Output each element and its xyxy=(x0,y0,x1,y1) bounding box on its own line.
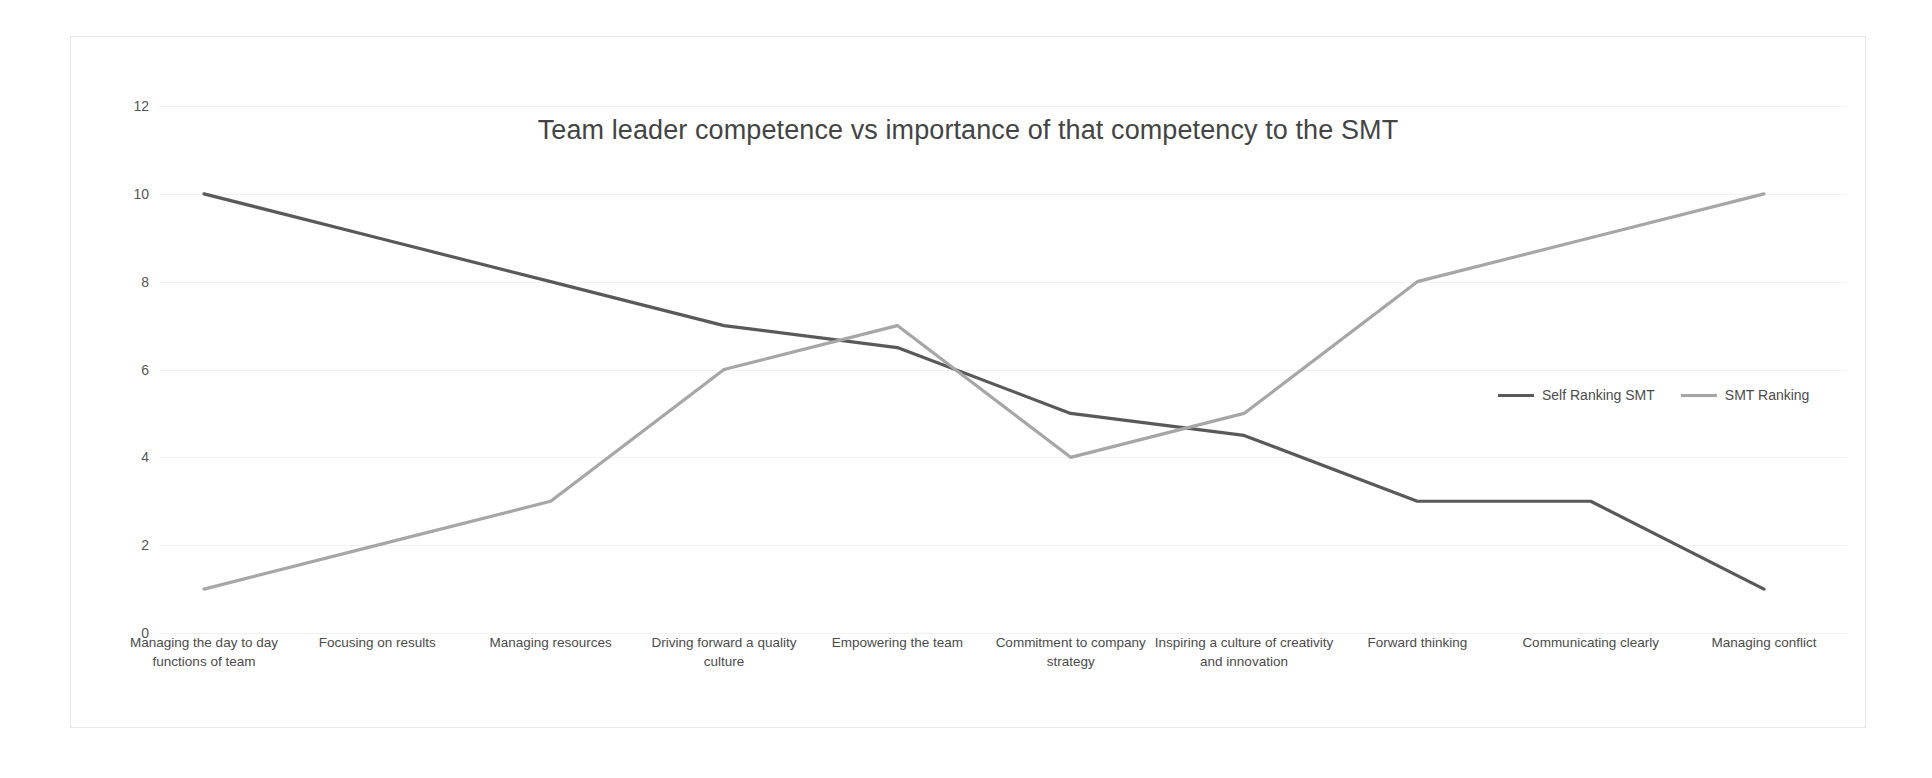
legend-item-1[interactable]: Self Ranking SMT xyxy=(1498,387,1655,403)
x-axis-tick-label: Empowering the team xyxy=(805,633,990,652)
legend-line-swatch-icon xyxy=(1498,394,1534,397)
legend-item-2[interactable]: SMT Ranking xyxy=(1681,387,1810,403)
x-axis: Managing the day to day functions of tea… xyxy=(71,633,1867,713)
legend-line-swatch-icon xyxy=(1681,394,1717,397)
plot-area: Team leader competence vs importance of … xyxy=(71,37,1865,727)
x-axis-tick-label: Managing the day to day functions of tea… xyxy=(112,633,297,671)
chart-frame: Team leader competence vs importance of … xyxy=(70,36,1866,728)
chart-legend: Self Ranking SMTSMT Ranking xyxy=(1498,387,1809,403)
x-axis-tick-label: Focusing on results xyxy=(285,633,470,652)
x-axis-tick-label: Driving forward a quality culture xyxy=(632,633,817,671)
x-axis-tick-label: Communicating clearly xyxy=(1498,633,1683,652)
x-axis-tick-label: Commitment to company strategy xyxy=(978,633,1163,671)
x-axis-tick-label: Managing resources xyxy=(458,633,643,652)
x-axis-tick-label: Inspiring a culture of creativity and in… xyxy=(1152,633,1337,671)
series-lines xyxy=(71,37,1867,729)
x-axis-tick-label: Managing conflict xyxy=(1672,633,1857,652)
legend-item-label: Self Ranking SMT xyxy=(1542,387,1655,403)
x-axis-tick-label: Forward thinking xyxy=(1325,633,1510,652)
legend-item-label: SMT Ranking xyxy=(1725,387,1810,403)
chart-page: Team leader competence vs importance of … xyxy=(0,0,1932,778)
